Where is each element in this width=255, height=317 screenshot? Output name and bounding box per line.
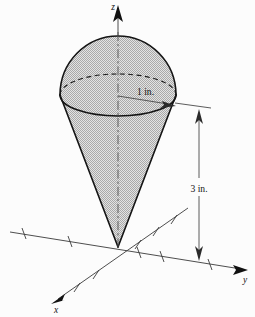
math-figure-3d-cone: x y z (0, 0, 255, 317)
radius-label: 1 in. (137, 86, 154, 97)
z-axis-label: z (110, 2, 115, 12)
x-axis-label: x (53, 305, 59, 315)
height-extension-line-top (175, 103, 211, 108)
figure-container: x y z (0, 0, 255, 317)
ice-cream-cone-solid (60, 32, 176, 247)
height-dimension: 3 in. (175, 103, 211, 261)
y-axis: y (10, 228, 248, 285)
y-axis-label: y (242, 275, 248, 285)
height-label: 3 in. (190, 183, 207, 194)
